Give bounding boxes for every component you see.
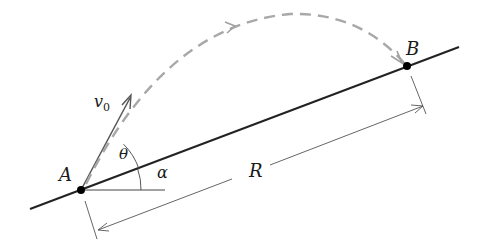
inclined-projectile-diagram: A B v0 θ α R [0, 0, 482, 250]
incline-ground [30, 47, 470, 240]
point-b-marker [403, 62, 411, 70]
point-a-marker [77, 186, 85, 194]
point-b-label: B [405, 38, 419, 59]
ground-shading [30, 47, 470, 240]
trajectory-endarrow-icon [391, 51, 402, 63]
theta-label: θ [119, 145, 128, 163]
alpha-label: α [157, 163, 168, 182]
trajectory-midarrow-icon [225, 22, 235, 33]
dimension-arrow-right-icon [411, 105, 423, 113]
dimension-arrow-left-icon [98, 223, 109, 231]
range-label: R [248, 160, 263, 181]
incline-surface-line [30, 47, 459, 209]
point-a-label: A [57, 164, 72, 185]
velocity-arrowhead-icon [122, 95, 131, 109]
velocity-label: v0 [94, 92, 110, 114]
